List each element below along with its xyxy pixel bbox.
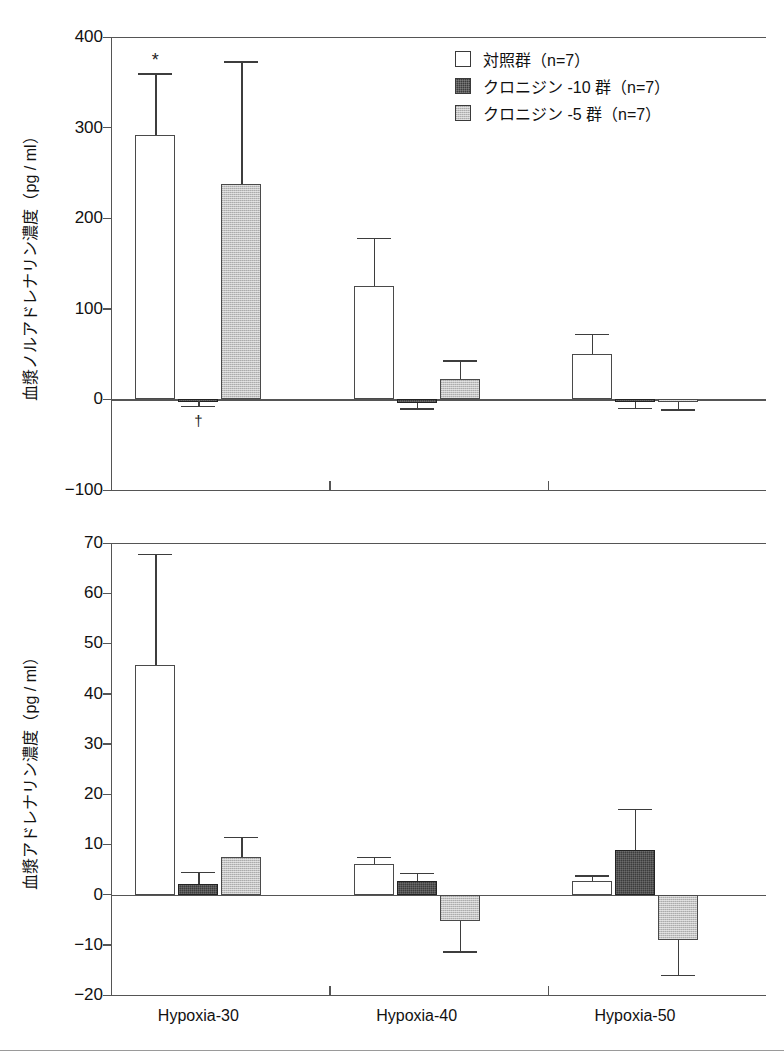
axis-frame-line (111, 490, 766, 491)
y-tick-label: 10 (84, 835, 103, 852)
y-tick-mark (103, 995, 112, 996)
error-bar-cap (181, 872, 215, 873)
significance-dagger: † (188, 413, 208, 428)
bar-hypoxia-30-series3 (221, 184, 261, 400)
bar-hypoxia-30-series1 (135, 665, 175, 895)
legend-item-clonidine5: クロニジン -5 群（n=7） (455, 99, 670, 126)
significance-asterisk: * (145, 51, 165, 69)
error-bar-stem (678, 402, 679, 409)
y-tick-label: 30 (84, 735, 103, 752)
axis-frame-line (111, 37, 766, 38)
error-bar-cap (575, 875, 609, 876)
x-axis-label-hypoxia-40: Hypoxia-40 (342, 1007, 492, 1025)
error-bar-stem (198, 872, 199, 884)
axis-frame-line (111, 543, 766, 544)
page-footer-rule (0, 1050, 784, 1051)
bar-hypoxia-30-series1 (135, 135, 175, 400)
y-axis-ticks-bottom: 706050403020100−10−20 (0, 528, 103, 1056)
error-bar-cap (138, 73, 172, 74)
legend-label: クロニジン -5 群（n=7） (483, 101, 661, 125)
legend-swatch-dark (455, 78, 471, 94)
y-tick-label: 70 (84, 534, 103, 551)
figure-page: 血漿ノルアドレナリン濃度（pg / ml） 4003002001000−100 … (0, 0, 784, 1056)
y-tick-mark (103, 37, 112, 38)
x-group-tick (329, 481, 330, 491)
bar-hypoxia-40-series1 (354, 864, 394, 895)
y-tick-mark (103, 944, 112, 945)
error-bar-cap (224, 61, 258, 62)
y-tick-mark (103, 844, 112, 845)
error-bar-cap (443, 360, 477, 361)
error-bar-cap (618, 408, 652, 409)
y-tick-mark (103, 127, 112, 128)
error-bar-stem (678, 940, 679, 975)
legend-item-control: 対照群（n=7） (455, 45, 670, 72)
plot-area-bottom (111, 543, 766, 995)
y-tick-label: 400 (75, 28, 103, 45)
x-axis-label-hypoxia-30: Hypoxia-30 (123, 1007, 273, 1025)
legend-swatch-white (455, 51, 471, 67)
bar-hypoxia-40-series3 (440, 895, 480, 922)
y-axis-line (111, 543, 112, 995)
x-group-tick (548, 986, 549, 996)
y-tick-label: 300 (75, 119, 103, 136)
bar-hypoxia-30-series2 (178, 884, 218, 895)
error-bar-stem (241, 61, 242, 183)
error-bar-cap (400, 408, 434, 409)
bar-hypoxia-40-series2 (397, 881, 437, 895)
bar-hypoxia-50-series1 (572, 354, 612, 399)
legend-label: 対照群（n=7） (483, 47, 590, 71)
bar-hypoxia-40-series1 (354, 286, 394, 399)
error-bar-stem (155, 73, 156, 135)
error-bar-stem (155, 554, 156, 664)
y-axis-ticks-top: 4003002001000−100 (0, 0, 103, 528)
y-tick-mark (103, 218, 112, 219)
y-tick-mark (103, 693, 112, 694)
chart-plasma-adrenaline: 血漿アドレナリン濃度（pg / ml） 706050403020100−10−2… (0, 528, 784, 1056)
bar-hypoxia-50-series3 (658, 895, 698, 940)
y-tick-mark (103, 894, 112, 895)
y-tick-label: 200 (75, 209, 103, 226)
y-tick-mark (103, 794, 112, 795)
y-tick-label: −20 (74, 986, 103, 1003)
bar-hypoxia-40-series3 (440, 379, 480, 399)
error-bar-stem (241, 837, 242, 857)
y-tick-mark (103, 399, 112, 400)
error-bar-cap (138, 554, 172, 555)
error-bar-stem (592, 334, 593, 354)
error-bar-stem (460, 360, 461, 379)
y-tick-mark (103, 490, 112, 491)
error-bar-cap (357, 857, 391, 858)
y-tick-mark (103, 308, 112, 309)
bar-hypoxia-50-series2 (615, 850, 655, 894)
y-tick-mark (103, 743, 112, 744)
x-group-tick (548, 481, 549, 491)
y-tick-label: −100 (65, 481, 103, 498)
error-bar-cap (443, 951, 477, 952)
error-bar-stem (460, 921, 461, 951)
y-tick-mark (103, 543, 112, 544)
chart-plasma-noradrenaline: 血漿ノルアドレナリン濃度（pg / ml） 4003002001000−100 … (0, 0, 784, 528)
error-bar-cap (400, 873, 434, 874)
y-tick-mark (103, 643, 112, 644)
y-tick-mark (103, 593, 112, 594)
legend-label: クロニジン -10 群（n=7） (483, 74, 670, 98)
bar-hypoxia-50-series1 (572, 881, 612, 895)
error-bar-cap (575, 334, 609, 335)
legend: 対照群（n=7）クロニジン -10 群（n=7）クロニジン -5 群（n=7） (455, 45, 670, 126)
y-tick-label: 40 (84, 685, 103, 702)
error-bar-cap (224, 837, 258, 838)
axis-frame-line (111, 995, 766, 996)
legend-item-clonidine10: クロニジン -10 群（n=7） (455, 72, 670, 99)
error-bar-cap (357, 238, 391, 239)
error-bar-stem (374, 238, 375, 286)
y-tick-label: 60 (84, 584, 103, 601)
y-tick-label: 20 (84, 785, 103, 802)
y-tick-label: −10 (74, 936, 103, 953)
legend-swatch-gray (455, 105, 471, 121)
error-bar-cap (618, 809, 652, 810)
y-tick-label: 100 (75, 300, 103, 317)
error-bar-cap (661, 975, 695, 976)
error-bar-stem (635, 809, 636, 850)
y-tick-label: 0 (94, 390, 103, 407)
